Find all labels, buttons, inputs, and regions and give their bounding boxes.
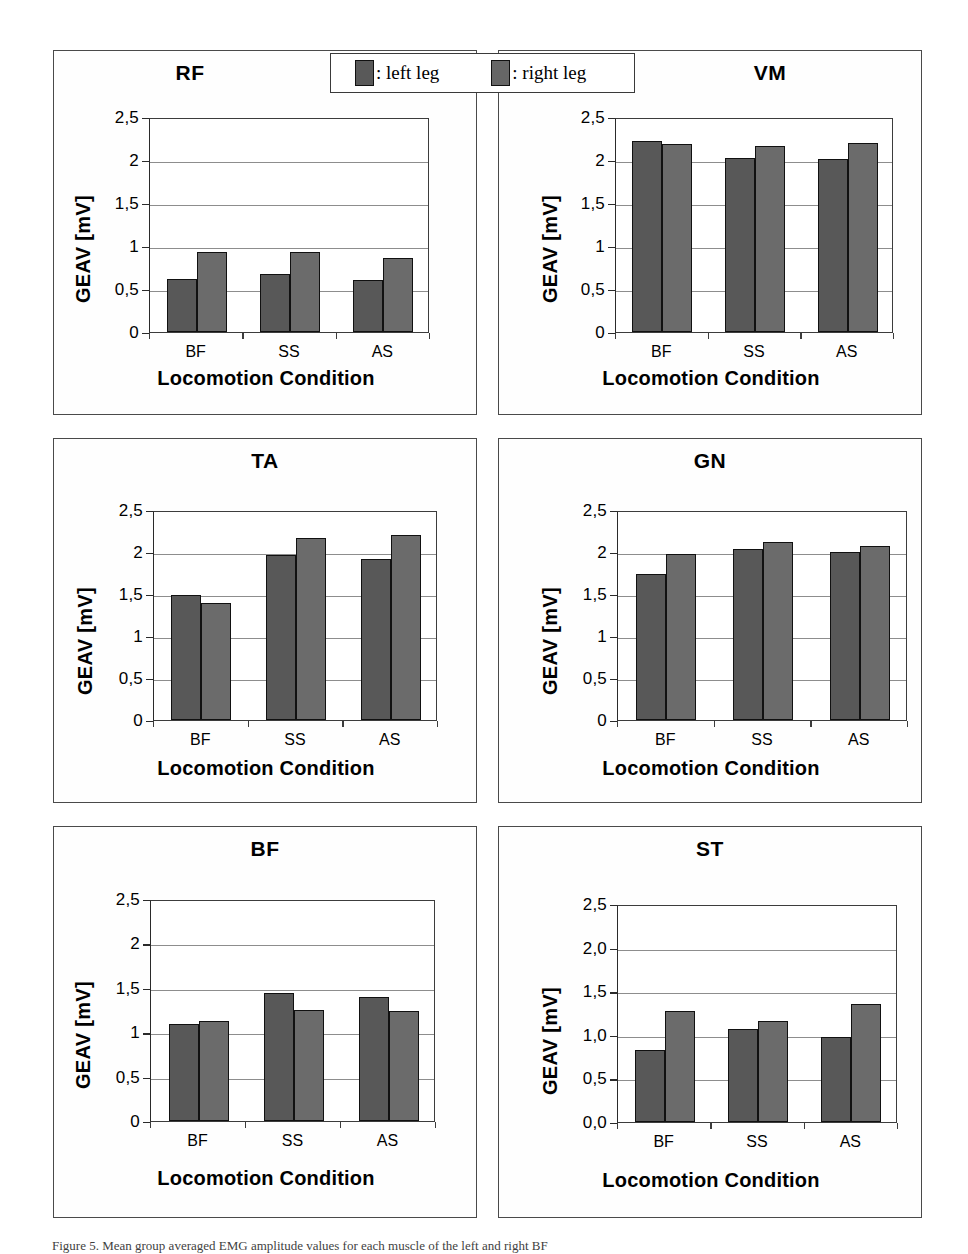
x-tick-label-ss: SS <box>284 731 305 749</box>
panel-rf: RF GEAV [mV]00,511,522,5BFSSASLocomotion… <box>53 50 477 415</box>
bar-ss-right-leg <box>758 1021 788 1122</box>
y-tick-mark <box>146 721 153 722</box>
y-tick-label: 2,0 <box>563 939 607 959</box>
y-axis-label: GEAV [mV] <box>539 987 562 1095</box>
y-tick-mark <box>143 989 150 990</box>
y-tick-label: 0,5 <box>563 1069 607 1089</box>
bar-ss-left-leg <box>264 993 294 1121</box>
x-tick-mark <box>893 333 894 339</box>
y-tick-label: 2 <box>95 151 139 171</box>
plot-area <box>149 118 429 333</box>
x-tick-label-as: AS <box>836 343 857 361</box>
bar-bf-right-leg <box>665 1011 695 1122</box>
y-tick-label: 0,5 <box>99 669 143 689</box>
bar-bf-right-leg <box>666 554 696 720</box>
bar-ss-right-leg <box>290 252 320 332</box>
y-tick-label: 2,5 <box>96 890 140 910</box>
y-tick-mark <box>143 1033 150 1034</box>
x-tick-label-as: AS <box>840 1133 861 1151</box>
y-tick-label: 1 <box>99 627 143 647</box>
x-tick-mark <box>710 1123 711 1129</box>
legend-label-left-leg: : left leg <box>376 62 439 84</box>
bar-ss-left-leg <box>733 549 763 720</box>
bar-ss-right-leg <box>296 538 326 720</box>
y-tick-mark <box>610 905 617 906</box>
bar-bf-right-leg <box>199 1021 229 1121</box>
y-tick-mark <box>146 595 153 596</box>
x-tick-label-bf: BF <box>190 731 210 749</box>
y-tick-mark <box>610 679 617 680</box>
x-tick-label-bf: BF <box>653 1133 673 1151</box>
bar-as-left-leg <box>359 997 389 1121</box>
bar-as-left-leg <box>818 159 848 332</box>
x-tick-mark <box>340 1122 341 1128</box>
y-tick-label: 2,5 <box>563 895 607 915</box>
x-tick-mark <box>153 721 154 727</box>
x-tick-mark <box>897 1123 898 1129</box>
x-tick-label-bf: BF <box>655 731 675 749</box>
x-tick-mark <box>149 333 150 339</box>
bar-bf-left-leg <box>171 595 201 720</box>
y-tick-mark <box>610 1123 617 1124</box>
y-tick-label: 2 <box>563 543 607 563</box>
x-tick-mark <box>617 721 618 727</box>
bar-bf-right-leg <box>201 603 231 720</box>
y-tick-mark <box>142 333 149 334</box>
x-tick-mark <box>708 333 709 339</box>
x-tick-mark <box>429 333 430 339</box>
y-tick-mark <box>142 204 149 205</box>
y-tick-mark <box>142 247 149 248</box>
y-tick-mark <box>610 553 617 554</box>
y-tick-mark <box>608 161 615 162</box>
bar-ss-right-leg <box>763 542 793 720</box>
y-tick-label: 1 <box>563 627 607 647</box>
plot-area <box>617 905 897 1123</box>
x-tick-label-as: AS <box>372 343 393 361</box>
bar-bf-right-leg <box>197 252 227 332</box>
bar-ss-right-leg <box>755 146 785 332</box>
bar-bf-right-leg <box>662 144 692 332</box>
gridline <box>150 248 428 249</box>
chart-st: GEAV [mV]0,00,51,01,52,02,5BFSSASLocomot… <box>499 827 923 1219</box>
x-tick-mark <box>617 1123 618 1129</box>
y-tick-label: 0 <box>563 711 607 731</box>
x-tick-mark <box>242 333 243 339</box>
y-tick-mark <box>610 992 617 993</box>
y-axis-label: GEAV [mV] <box>74 587 97 695</box>
panel-gn: GN GEAV [mV]00,511,522,5BFSSASLocomotion… <box>498 438 922 803</box>
y-tick-mark <box>610 721 617 722</box>
bar-as-right-leg <box>851 1004 881 1122</box>
y-axis-label: GEAV [mV] <box>72 981 95 1089</box>
x-tick-mark <box>336 333 337 339</box>
x-axis-label: Locomotion Condition <box>54 1167 478 1190</box>
x-tick-mark <box>435 1122 436 1128</box>
y-tick-mark <box>610 1079 617 1080</box>
y-tick-label: 1,5 <box>563 982 607 1002</box>
emg-figure: RF GEAV [mV]00,511,522,5BFSSASLocomotion… <box>0 0 968 1254</box>
chart-bf: GEAV [mV]00,511,522,5BFSSASLocomotion Co… <box>54 827 478 1219</box>
x-tick-label-ss: SS <box>278 343 299 361</box>
bar-bf-left-leg <box>632 141 662 332</box>
y-tick-label: 1,5 <box>96 979 140 999</box>
x-tick-label-as: AS <box>379 731 400 749</box>
bar-ss-right-leg <box>294 1010 324 1121</box>
y-tick-label: 2,5 <box>95 108 139 128</box>
y-tick-mark <box>608 247 615 248</box>
bar-as-left-leg <box>361 559 391 720</box>
gridline <box>150 205 428 206</box>
panel-vm: VM GEAV [mV]00,511,522,5BFSSASLocomotion… <box>498 50 922 415</box>
y-tick-mark <box>143 1122 150 1123</box>
y-tick-label: 0,0 <box>563 1113 607 1133</box>
bar-as-right-leg <box>860 546 890 720</box>
x-tick-mark <box>804 1123 805 1129</box>
x-tick-label-ss: SS <box>282 1132 303 1150</box>
x-axis-label: Locomotion Condition <box>499 757 923 780</box>
legend-entry-right-leg: : right leg <box>491 60 586 86</box>
y-tick-label: 1 <box>95 237 139 257</box>
chart-gn: GEAV [mV]00,511,522,5BFSSASLocomotion Co… <box>499 439 923 804</box>
x-tick-mark <box>248 721 249 727</box>
y-tick-mark <box>143 1078 150 1079</box>
y-tick-label: 1,0 <box>563 1026 607 1046</box>
y-tick-label: 1,5 <box>95 194 139 214</box>
x-tick-mark <box>800 333 801 339</box>
